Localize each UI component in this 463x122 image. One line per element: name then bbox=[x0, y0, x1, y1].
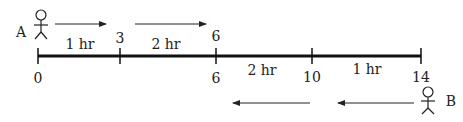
bottom-tick-label: 10 bbox=[303, 70, 321, 84]
diagram-graphics bbox=[0, 0, 463, 122]
top-tick-label: 6 bbox=[212, 29, 221, 43]
bottom-tick-label: 0 bbox=[34, 71, 43, 85]
number-line-diagram: A B 3 6 0 6 10 14 1 hr 2 hr 2 hr 1 hr bbox=[0, 0, 463, 122]
segment-duration-label: 1 hr bbox=[65, 37, 94, 51]
segment-duration-label: 2 hr bbox=[247, 63, 276, 77]
segment-duration-label: 1 hr bbox=[352, 62, 381, 76]
top-tick-label: 3 bbox=[116, 31, 125, 45]
bottom-tick-label: 6 bbox=[212, 71, 221, 85]
person-b-label: B bbox=[446, 94, 456, 108]
segment-duration-label: 2 hr bbox=[151, 37, 180, 51]
stick-figure-b-icon bbox=[421, 87, 435, 114]
person-a-label: A bbox=[16, 25, 26, 39]
bottom-tick-label: 14 bbox=[412, 70, 430, 84]
stick-figure-a-icon bbox=[34, 10, 48, 39]
